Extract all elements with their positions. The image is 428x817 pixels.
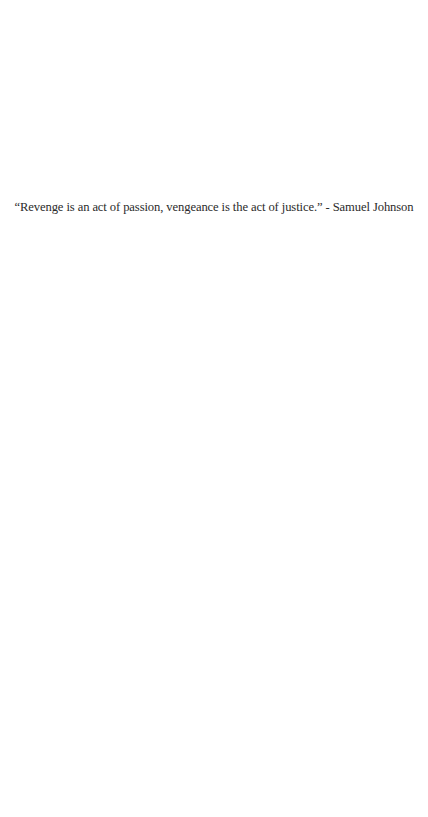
page: “Revenge is an act of passion, vengeance… bbox=[0, 0, 428, 817]
quote-text: “Revenge is an act of passion, vengeance… bbox=[0, 199, 428, 215]
